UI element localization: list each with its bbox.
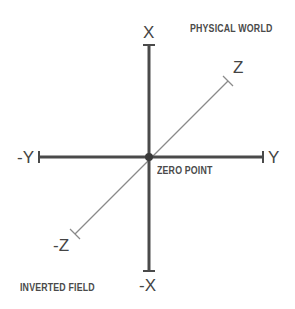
- axes-graphic: [0, 0, 295, 309]
- x-pos-label: X: [143, 24, 154, 41]
- z-neg-label: -Z: [53, 237, 69, 254]
- z-pos-label: Z: [233, 59, 243, 76]
- x-neg-label: -X: [139, 277, 156, 294]
- zero-point-label: ZERO POINT: [157, 166, 213, 176]
- inverted-field-label: INVERTED FIELD: [20, 283, 95, 293]
- coordinate-axes-diagram: X -X -Y Y Z -Z ZERO POINT PHYSICAL WORLD…: [0, 0, 295, 309]
- y-pos-label: Y: [268, 149, 279, 166]
- zero-point-dot: [145, 153, 153, 161]
- physical-world-label: PHYSICAL WORLD: [190, 24, 272, 34]
- y-neg-label: -Y: [17, 149, 34, 166]
